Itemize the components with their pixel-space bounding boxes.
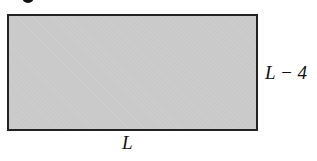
shaded-rectangle [7,14,258,131]
width-label: L [122,132,133,154]
height-label: L − 4 [265,62,307,84]
cropped-caption-fragment [22,0,34,3]
